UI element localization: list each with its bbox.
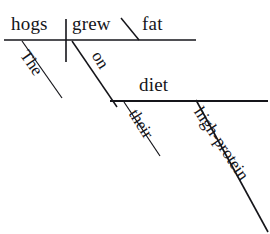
word-verb: grew xyxy=(72,14,111,33)
predicate-adjective-slant-line xyxy=(121,18,139,40)
sentence-diagram: hogs grew fat diet The on their high-pro… xyxy=(0,0,270,234)
word-subject: hogs xyxy=(11,14,48,33)
preposition-slant-line xyxy=(72,41,117,107)
word-predicate-adjective: fat xyxy=(142,14,163,33)
word-object-of-preposition: diet xyxy=(139,75,168,94)
